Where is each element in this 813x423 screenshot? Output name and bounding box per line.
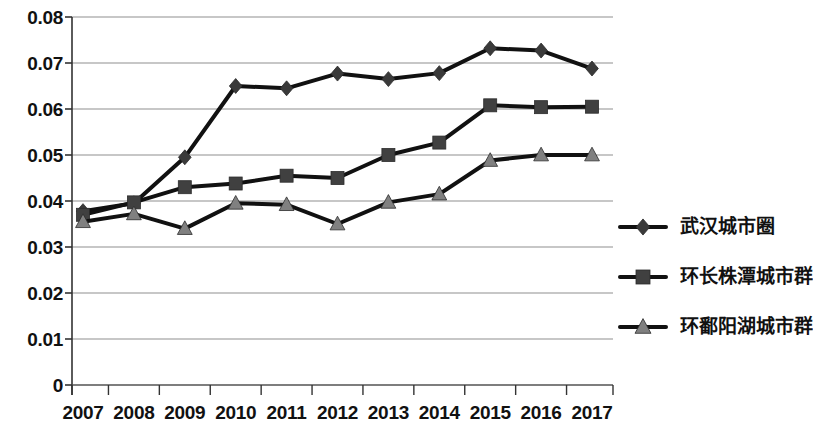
data-point-marker [382,149,395,162]
y-axis-tick-label: 0 [53,376,63,395]
y-axis-tick-label: 0.02 [27,284,63,303]
data-point-marker [484,99,497,112]
y-axis-tick-label: 0.01 [27,330,63,349]
square-marker-icon [636,270,650,284]
data-point-marker [433,66,446,81]
data-point-marker [280,81,293,96]
series-line [83,105,592,214]
y-axis-tick-label: 0.06 [27,100,63,119]
legend [620,219,666,333]
data-point-marker [331,172,344,185]
data-point-marker [280,169,293,182]
legend-item-label: 环长株潭城市群 [680,267,813,286]
data-point-marker [178,181,191,194]
data-point-marker [331,66,344,81]
series-1 [77,41,599,219]
y-axis-tick-label: 0.05 [27,146,63,165]
data-series [76,41,600,235]
data-point-marker [586,100,599,113]
series-3 [76,147,600,234]
y-axis-tick-label: 0.03 [27,238,63,257]
y-axis-tick-label: 0.04 [27,192,63,211]
y-axis-tick-label: 0.08 [27,8,63,27]
data-point-marker [535,43,548,58]
series-2 [77,99,599,221]
y-axis-tick-label: 0.07 [27,54,63,73]
data-point-marker [433,136,446,149]
data-point-marker [382,72,395,87]
data-point-marker [535,101,548,114]
data-point-marker [484,41,497,56]
legend-item-label: 武汉城市圈 [680,217,775,236]
diamond-marker-icon [636,219,650,235]
legend-item-label: 环鄱阳湖城市群 [680,317,813,336]
x-axis-tick-label: 2017 [562,403,622,422]
data-point-marker [229,177,242,190]
